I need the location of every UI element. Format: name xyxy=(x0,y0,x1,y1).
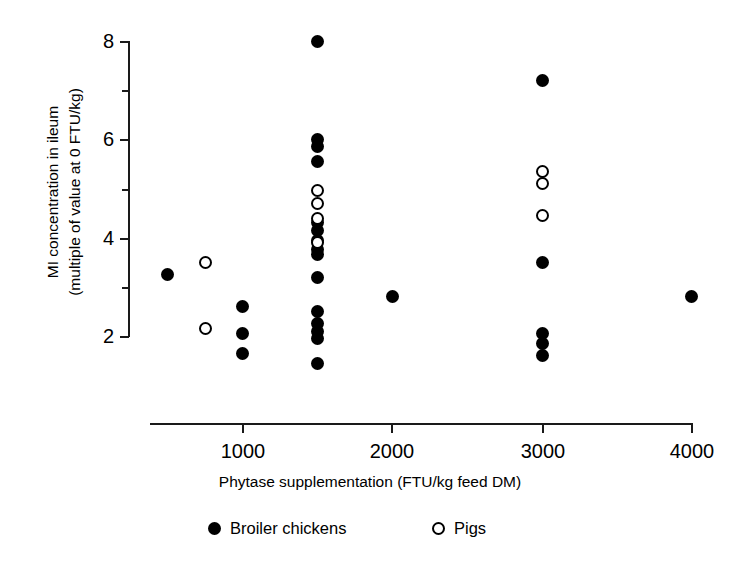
y-minor-tick-7 xyxy=(122,90,129,92)
y-tick-2 xyxy=(120,336,129,338)
legend-label-pigs: Pigs xyxy=(454,519,486,537)
x-axis-line xyxy=(150,423,693,425)
scatter-chart-figure: MI concentration in ileum (multiple of v… xyxy=(0,0,744,582)
data-point-broiler-chickens-13 xyxy=(311,271,324,284)
y-tick-label-6: 6 xyxy=(90,129,114,149)
data-point-broiler-chickens-19 xyxy=(386,290,399,303)
plot-area: MI concentration in ileum (multiple of v… xyxy=(0,0,744,582)
data-point-pigs-7 xyxy=(536,177,549,190)
y-axis-title-line1: MI concentration in ileum xyxy=(42,42,64,342)
y-tick-8 xyxy=(120,41,129,43)
y-tick-6 xyxy=(120,139,129,141)
y-minor-tick-5 xyxy=(122,189,129,191)
y-tick-label-8: 8 xyxy=(90,31,114,51)
data-point-broiler-chickens-18 xyxy=(311,357,324,370)
data-point-broiler-chickens-6 xyxy=(311,140,324,153)
y-axis-title: MI concentration in ileum (multiple of v… xyxy=(42,42,86,342)
data-point-pigs-0 xyxy=(199,256,212,269)
legend-item-pigs: Pigs xyxy=(432,519,486,537)
x-tick-2000 xyxy=(391,423,393,433)
y-tick-4 xyxy=(120,238,129,240)
data-point-broiler-chickens-20 xyxy=(536,74,549,87)
data-point-broiler-chickens-14 xyxy=(311,305,324,318)
y-minor-tick-3 xyxy=(122,287,129,289)
legend-item-broiler-chickens: Broiler chickens xyxy=(208,519,346,537)
x-tick-label-4000: 4000 xyxy=(652,440,732,462)
x-tick-label-1000: 1000 xyxy=(203,440,283,462)
data-point-broiler-chickens-23 xyxy=(536,337,549,350)
filled-circle-marker-icon xyxy=(208,522,221,535)
y-axis-title-line2: (multiple of value at 0 FTU/kg) xyxy=(64,42,86,342)
x-tick-label-3000: 3000 xyxy=(503,440,583,462)
data-point-pigs-6 xyxy=(536,165,549,178)
y-tick-label-4: 4 xyxy=(90,228,114,248)
data-point-broiler-chickens-4 xyxy=(311,35,324,48)
data-point-broiler-chickens-7 xyxy=(311,155,324,168)
data-point-broiler-chickens-3 xyxy=(236,347,249,360)
data-point-broiler-chickens-1 xyxy=(236,300,249,313)
data-point-broiler-chickens-25 xyxy=(685,290,698,303)
data-point-pigs-2 xyxy=(311,184,324,197)
data-point-pigs-4 xyxy=(311,212,324,225)
data-point-broiler-chickens-21 xyxy=(536,256,549,269)
data-point-broiler-chickens-0 xyxy=(161,268,174,281)
data-point-broiler-chickens-2 xyxy=(236,327,249,340)
data-point-pigs-8 xyxy=(536,209,549,222)
data-point-broiler-chickens-17 xyxy=(311,332,324,345)
x-tick-1000 xyxy=(242,423,244,433)
x-tick-label-2000: 2000 xyxy=(352,440,432,462)
x-axis-title: Phytase supplementation (FTU/kg feed DM) xyxy=(110,473,630,491)
x-tick-4000 xyxy=(691,423,693,433)
data-point-broiler-chickens-12 xyxy=(311,248,324,261)
y-tick-label-2: 2 xyxy=(90,326,114,346)
data-point-pigs-3 xyxy=(311,197,324,210)
legend-label-broiler-chickens: Broiler chickens xyxy=(230,519,346,537)
x-tick-3000 xyxy=(542,423,544,433)
data-point-pigs-1 xyxy=(199,322,212,335)
open-circle-marker-icon xyxy=(432,522,445,535)
chart-legend: Broiler chickens Pigs xyxy=(150,519,610,549)
data-point-broiler-chickens-24 xyxy=(536,349,549,362)
